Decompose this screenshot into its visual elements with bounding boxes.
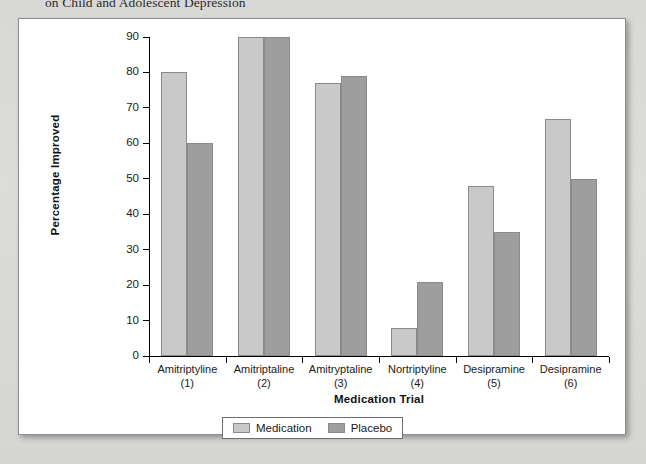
y-axis-tick: [143, 249, 149, 250]
y-axis-tick-label: 0: [111, 350, 139, 361]
bar-medication-1: [161, 72, 187, 356]
caption-text: on Child and Adolescent Depression: [45, 0, 246, 11]
y-axis-tick-label: 30: [111, 244, 139, 255]
y-axis-tick: [143, 320, 149, 321]
category-name: Desipramine: [540, 363, 602, 375]
chart-legend: MedicationPlacebo: [222, 417, 403, 439]
figure-page: on Child and Adolescent Depression Perce…: [0, 0, 646, 464]
y-axis-tick-label: 50: [111, 173, 139, 184]
y-axis-tick: [143, 143, 149, 144]
y-axis-tick-label: 40: [111, 208, 139, 219]
y-axis-tick: [143, 37, 149, 38]
category-name: Amitriptaline: [234, 363, 295, 375]
bar-placebo-5: [494, 232, 520, 356]
plot-area: Percentage Improved Medication Trial 010…: [19, 19, 627, 436]
bar-placebo-2: [264, 37, 290, 356]
bar-placebo-1: [187, 143, 213, 356]
bar-medication-5: [468, 186, 494, 356]
bar-placebo-3: [341, 76, 367, 356]
legend-entry-placebo: Placebo: [328, 422, 393, 434]
y-axis-tick-label: 80: [111, 66, 139, 77]
y-axis-tick: [143, 214, 149, 215]
category-name: Desipramine: [463, 363, 525, 375]
bar-medication-6: [545, 119, 571, 356]
legend-swatch-placebo: [328, 423, 345, 433]
caption-clipped-region: on Child and Adolescent Depression: [0, 0, 646, 16]
figure-panel: Percentage Improved Medication Trial 010…: [18, 18, 626, 435]
y-axis-tick: [143, 72, 149, 73]
bar-medication-3: [315, 83, 341, 356]
bar-placebo-6: [571, 179, 597, 356]
category-name: Amitryptaline: [309, 363, 373, 375]
y-axis-tick-label: 10: [111, 315, 139, 326]
y-axis-tick-label: 20: [111, 279, 139, 290]
y-axis-tick-label: 70: [111, 102, 139, 113]
y-axis-tick: [143, 107, 149, 108]
y-axis-title: Percentage Improved: [49, 95, 61, 255]
x-axis-title: Medication Trial: [149, 393, 609, 405]
legend-label-medication: Medication: [256, 422, 312, 434]
bar-placebo-4: [417, 282, 443, 356]
bar-medication-2: [238, 37, 264, 356]
y-axis-line: [149, 37, 150, 356]
legend-entry-medication: Medication: [233, 422, 312, 434]
y-axis-tick-label: 60: [111, 137, 139, 148]
legend-label-placebo: Placebo: [351, 422, 393, 434]
x-axis-category-label: Desipramine(6): [523, 363, 619, 390]
category-name: Nortriptyline: [388, 363, 447, 375]
y-axis-tick: [143, 285, 149, 286]
category-name: Amitriptyline: [157, 363, 217, 375]
category-index: (6): [523, 377, 619, 391]
y-axis-tick-label: 90: [111, 31, 139, 42]
y-axis-tick: [143, 178, 149, 179]
bar-medication-4: [391, 328, 417, 356]
legend-swatch-medication: [233, 423, 250, 433]
